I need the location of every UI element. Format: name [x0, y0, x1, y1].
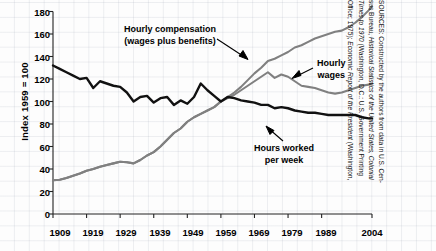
- source-line-3-italic: Times to 1970: [358, 0, 365, 42]
- chart-figure: Index 1959 = 100 180 160 140 120 100 80 …: [0, 0, 436, 251]
- annotation-arrows: [217, 39, 313, 141]
- arrow-hourly-compensation-icon: [217, 39, 248, 60]
- axis-lines: [53, 12, 372, 215]
- x-tick-marks: [53, 214, 372, 218]
- source-line-4-plain: Office; 1975);: [347, 0, 354, 41]
- source-line-3-plain: (Washington, D.C.: U.S. Government Print…: [358, 42, 365, 176]
- arrow-hourly-wages-icon: [292, 68, 313, 79]
- source-line-4-tail: (Washington,: [347, 140, 354, 180]
- source-line-3: Times to 1970 (Washington, D.C.: U.S. Go…: [355, 0, 365, 251]
- source-line-4: Office; 1975); Economic Report of the Pr…: [345, 0, 355, 251]
- source-line-2-plain: sus Bureau,: [368, 0, 375, 37]
- source-line-2: sus Bureau, Historical Statistics of the…: [366, 0, 376, 251]
- series-line-hourly-wages: [53, 72, 372, 180]
- arrow-hours-worked-icon: [266, 126, 283, 141]
- source-note: SOURCES: Constructed by the authors from…: [336, 0, 386, 251]
- source-line-2-italic: Historical Statistics of the United Stat…: [368, 37, 375, 180]
- source-line-1: SOURCES: Constructed by the authors from…: [376, 0, 386, 251]
- y-tick-marks: [49, 12, 53, 215]
- source-line-4-italic: Economic Report of the President: [347, 41, 354, 140]
